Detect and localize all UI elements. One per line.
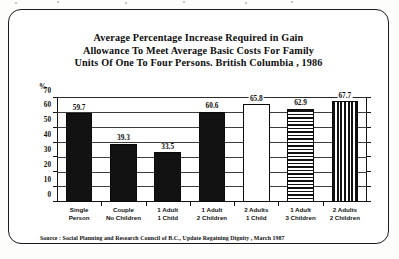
bar [332,101,359,202]
y-axis-tick [53,127,57,128]
y-axis-tick-label: 60 [44,101,51,109]
y-axis-tick-right [367,156,371,157]
category-label-line: 2 Adults [244,206,268,214]
y-axis-tick-right [367,201,371,202]
bar-value-label: 59.7 [72,104,87,112]
x-axis-tick [101,202,102,206]
category-label-line: 1 Child [244,214,268,222]
y-axis-tick-right [367,127,371,128]
x-axis-category-label: 1 Adult1 Child [157,206,178,222]
x-axis-tick [190,202,191,206]
y-axis-tick [53,186,57,187]
bar [243,104,270,202]
category-label-line: No Children [106,214,141,222]
y-axis-tick-label: 10 [44,176,51,184]
x-axis-category-label: 1 Adult3 Children [285,206,315,222]
x-axis-category-label: CoupleNo Children [106,206,141,222]
x-axis-category-label: SinglePerson [69,206,90,222]
plot-area: 010203040506070 59.739.333.560.665.862.9… [57,98,367,202]
y-axis-tick-label: 20 [44,161,51,169]
bar-value-label: 65.8 [249,95,264,103]
y-axis-tick-right [367,171,371,172]
y-axis-tick-label: 30 [44,146,51,154]
chart-title-line-1: Average Percentage Increase Required in … [9,32,388,45]
category-label-line: 1 Child [157,214,178,222]
y-axis-tick-right [367,112,371,113]
x-axis-category-label: 1 Adult2 Children [197,206,227,222]
bar-value-label: 60.6 [205,102,220,110]
y-axis-tick [53,156,57,157]
bar-value-label: 33.5 [160,143,175,151]
y-axis-tick-label: 70 [44,87,51,95]
category-label-line: 2 Adults [330,206,360,214]
bar [66,113,93,202]
x-axis-tick [278,202,279,206]
y-axis-tick-right [367,97,371,98]
y-axis-tick-label: 0 [47,191,51,199]
category-label-line: Couple [106,206,141,214]
source-note: Source : Social Planning and Research Co… [40,235,285,241]
category-label-line: 2 Children [330,214,360,222]
category-label-line: Single [69,206,90,214]
chart-frame: Average Percentage Increase Required in … [8,9,389,244]
y-axis-tick-label: 40 [44,131,51,139]
x-axis-category-label: 2 Adults1 Child [244,206,268,222]
category-label-line: 1 Adult [157,206,178,214]
bar [110,144,137,202]
y-axis-tick-label: 50 [44,116,51,124]
y-axis-tick [53,112,57,113]
gridline [57,97,367,98]
category-label-line: 2 Children [197,214,227,222]
x-axis-tick [234,202,235,206]
scanned-page: Average Percentage Increase Required in … [0,0,399,259]
scan-artifact [6,0,306,7]
x-axis-tick [146,202,147,206]
y-axis-tick [53,142,57,143]
x-axis-tick [323,202,324,206]
category-label-line: 3 Children [285,214,315,222]
bar [199,112,226,202]
chart-title-line-3: Units Of One To Four Persons. British Co… [9,57,388,70]
category-label-line: 1 Adult [197,206,227,214]
chart-title: Average Percentage Increase Required in … [9,32,388,70]
bar-value-label: 62.9 [293,99,308,107]
chart-title-line-2: Allowance To Meet Average Basic Costs Fo… [9,45,388,58]
y-axis-tick-right [367,186,371,187]
bar-value-label: 67.7 [337,92,352,100]
category-label-line: 1 Adult [285,206,315,214]
bar [287,109,314,202]
bar-value-label: 39.3 [116,134,131,142]
y-axis-tick [53,171,57,172]
x-axis-category-label: 2 Adults2 Children [330,206,360,222]
y-axis-tick [53,201,57,202]
category-label-line: Person [69,214,90,222]
bar [154,152,181,202]
x-axis-category-labels: SinglePersonCoupleNo Children1 Adult1 Ch… [57,206,367,228]
y-axis-tick [53,97,57,98]
y-axis-tick-right [367,142,371,143]
